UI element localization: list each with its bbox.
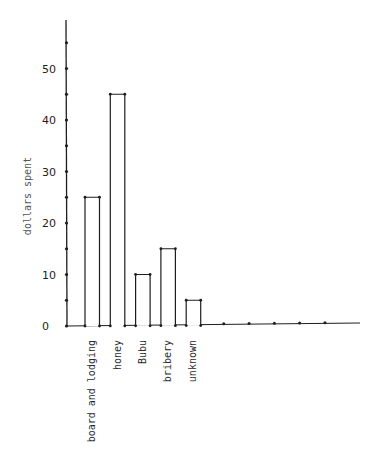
y-tick: [65, 41, 68, 44]
x-slot-dot: [323, 321, 326, 324]
bar-honey: [110, 94, 125, 326]
y-tick: [65, 221, 68, 224]
y-tick: [65, 144, 68, 147]
y-axis: 01020304050: [42, 20, 68, 333]
category-labels: board and lodginghoneyBububriberyunknown: [86, 340, 198, 442]
bar-chart: 01020304050 board and lodginghoneyBububr…: [0, 0, 377, 462]
x-slot-dot: [298, 322, 301, 325]
bar-board-and-lodging: [85, 197, 100, 326]
category-label: board and lodging: [86, 340, 97, 442]
y-tick-label: 30: [42, 166, 56, 179]
y-tick: [65, 247, 68, 250]
y-tick: [65, 299, 68, 302]
y-tick: [65, 196, 68, 199]
bar-bribery: [161, 249, 176, 326]
y-tick-label: 10: [42, 269, 56, 282]
x-slot-dot: [273, 322, 276, 325]
y-tick: [65, 67, 68, 70]
y-tick-label: 50: [42, 63, 56, 76]
bar-unknown: [186, 300, 201, 325]
bars: [84, 93, 203, 328]
y-tick: [65, 273, 68, 276]
y-axis-title: dollars spent: [22, 157, 33, 235]
y-tick-label: 0: [42, 320, 49, 333]
category-label: unknown: [187, 340, 198, 382]
x-slot-dot: [222, 322, 225, 325]
y-tick-label: 20: [42, 217, 56, 230]
y-tick: [65, 93, 68, 96]
category-label: bribery: [162, 340, 173, 382]
y-tick: [65, 170, 68, 173]
y-tick: [65, 118, 68, 121]
x-slot-dot: [248, 322, 251, 325]
bar-bubu: [136, 275, 151, 326]
category-label: honey: [112, 340, 123, 370]
y-tick-label: 40: [42, 114, 56, 127]
category-label: Bubu: [137, 340, 148, 364]
